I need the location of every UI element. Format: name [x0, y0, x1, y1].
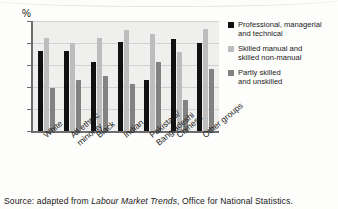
bar	[203, 29, 208, 131]
legend-label: Skilled manual andskilled non-manual	[238, 44, 302, 62]
chart-legend: Professional, managerialand technicalSki…	[228, 20, 328, 92]
legend-label: Partly skilledand unskilled	[238, 68, 282, 86]
bar-group	[139, 21, 166, 131]
bar	[44, 38, 49, 132]
legend-item: Professional, managerialand technical	[228, 20, 328, 38]
bar	[64, 51, 69, 131]
bar-group	[33, 21, 60, 131]
source-prefix: Source: adapted from	[4, 196, 91, 206]
legend-swatch	[228, 22, 234, 28]
source-note: Source: adapted from Labour Market Trend…	[4, 196, 293, 206]
bar	[70, 43, 75, 131]
legend-item: Partly skilledand unskilled	[228, 68, 328, 86]
source-publication: Labour Market Trends	[91, 196, 177, 206]
legend-swatch	[228, 46, 234, 52]
bar-group	[60, 21, 87, 131]
bar	[124, 30, 129, 131]
bar	[150, 34, 155, 131]
bar	[38, 51, 43, 131]
x-axis-labels: WhiteAll ethnicminorityBlackIndianPakist…	[33, 133, 219, 185]
source-suffix: , Office for National Statistics.	[177, 196, 293, 206]
legend-label: Professional, managerialand technical	[238, 20, 322, 38]
legend-item: Skilled manual andskilled non-manual	[228, 44, 328, 62]
legend-swatch	[228, 70, 234, 76]
bar	[118, 42, 123, 131]
bar-group	[113, 21, 140, 131]
